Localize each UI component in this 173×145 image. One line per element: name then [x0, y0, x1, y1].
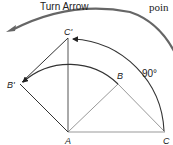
label-c-prime: C': [64, 27, 72, 37]
label-a: A: [64, 136, 71, 145]
segment-ab: [68, 84, 118, 132]
clipped-text: poin: [149, 1, 169, 13]
triangle-ab-prime-c-prime: [20, 38, 68, 132]
turn-arrow-label: Turn Arrow: [40, 1, 89, 12]
turn-arrow-head-icon: [6, 25, 16, 32]
label-c: C: [163, 136, 170, 145]
triangle-abc: [68, 84, 165, 132]
turn-arrow: [6, 9, 173, 55]
segment-ab-prime: [20, 84, 68, 132]
label-b: B: [117, 71, 123, 81]
segment-b-prime-c-prime: [22, 38, 68, 82]
label-b-prime: B': [7, 80, 15, 90]
rotation-diagram: Turn Arrow poin 90° C' B' B A C: [0, 0, 173, 145]
angle-label: 90°: [142, 68, 157, 79]
segment-bc: [118, 84, 165, 132]
